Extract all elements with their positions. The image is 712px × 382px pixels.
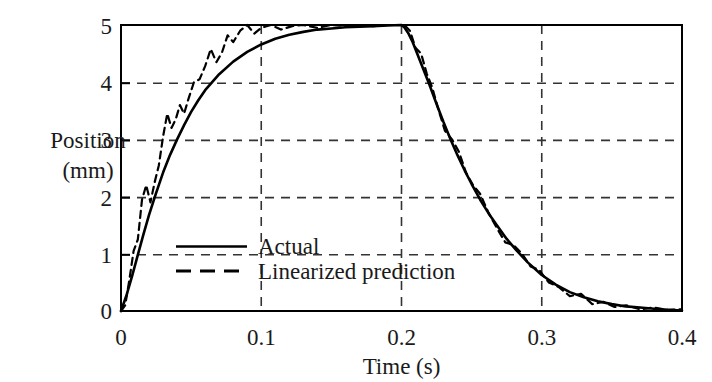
position-vs-time-chart: 5 4 3 2 1 0 0 0.1 0.2 0.3 0.4 Position (…	[0, 0, 712, 382]
xtick-label-0.3: 0.3	[527, 325, 556, 350]
xtick-label-0.1: 0.1	[247, 325, 276, 350]
ytick-label-0: 0	[101, 299, 113, 324]
x-tick-labels: 0 0.1 0.2 0.3 0.4	[115, 325, 697, 350]
ytick-label-1: 1	[101, 243, 113, 268]
xtick-label-0.2: 0.2	[387, 325, 416, 350]
x-axis-label: Time (s)	[363, 354, 441, 379]
legend-label-actual: Actual	[258, 234, 319, 259]
ytick-label-4: 4	[101, 71, 113, 96]
y-axis-label-line1: Position	[50, 128, 126, 153]
ytick-label-5: 5	[101, 14, 113, 39]
legend-label-linearized-prediction: Linearized prediction	[258, 259, 456, 284]
y-axis-label-line2: (mm)	[62, 158, 113, 183]
xtick-label-0.4: 0.4	[668, 325, 697, 350]
ytick-label-2: 2	[101, 186, 113, 211]
xtick-label-0: 0	[115, 325, 127, 350]
